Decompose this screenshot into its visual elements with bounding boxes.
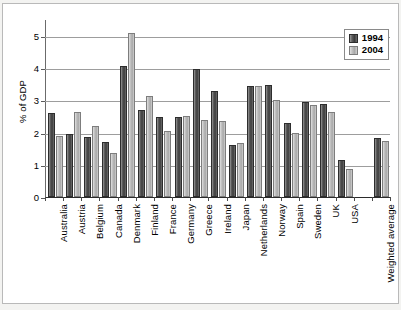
- y-tick-label-1: 1: [25, 161, 39, 171]
- bar-series-container: [45, 23, 390, 197]
- x-tick-mark: [45, 197, 46, 201]
- legend-swatch-icon-2004: [349, 46, 358, 55]
- x-tick-label: Belgium: [94, 204, 105, 308]
- bar-2004: [310, 105, 317, 197]
- x-tick-mark: [118, 197, 119, 201]
- x-tick-mark: [136, 197, 137, 201]
- bar-1994: [265, 85, 272, 197]
- x-tick-label: Germany: [185, 204, 196, 308]
- x-tick-label: Austria: [76, 204, 87, 308]
- bar-group: [119, 23, 135, 197]
- y-tick-label-3: 3: [25, 96, 39, 106]
- bar-2004: [56, 136, 63, 197]
- x-tick-mark: [390, 197, 391, 201]
- bar-group: [319, 23, 335, 197]
- x-tick-mark: [81, 197, 82, 201]
- bar-1994: [374, 138, 381, 197]
- bar-group: [192, 23, 208, 197]
- x-tick-mark: [172, 197, 173, 201]
- x-tick-mark: [99, 197, 100, 201]
- bar-1994: [338, 160, 345, 197]
- chart-plate: % of GDP 012345 AustraliaAustriaBelgiumC…: [2, 3, 399, 304]
- y-tick-label-4: 4: [25, 64, 39, 74]
- bar-1994: [156, 117, 163, 197]
- plot-area: 012345: [45, 24, 390, 198]
- bar-group: [137, 23, 153, 197]
- x-tick-label: Denmark: [131, 204, 142, 308]
- x-tick-label: Australia: [58, 204, 69, 308]
- legend-swatch-icon-1994: [349, 34, 358, 43]
- x-tick-mark: [190, 197, 191, 201]
- bar-1994: [320, 104, 327, 197]
- x-tick-label: Ireland: [222, 204, 233, 308]
- bar-group: [65, 23, 81, 197]
- x-tick-label: UK: [330, 204, 341, 308]
- bar-1994: [247, 86, 254, 197]
- bar-1994: [138, 110, 145, 197]
- chart-figure: % of GDP 012345 AustraliaAustriaBelgiumC…: [0, 0, 401, 310]
- bar-1994: [66, 134, 73, 197]
- x-tick-mark: [63, 197, 64, 201]
- x-tick-label: France: [167, 204, 178, 308]
- bar-group: [47, 23, 63, 197]
- bar-2004: [164, 131, 171, 197]
- y-tick-label-5: 5: [25, 32, 39, 42]
- bar-2004: [328, 112, 335, 197]
- x-tick-label: Japan: [240, 204, 251, 308]
- bar-2004: [74, 112, 81, 197]
- x-tick-mark: [281, 197, 282, 201]
- x-tick-label: Spain: [294, 204, 305, 308]
- legend-label-2004: 2004: [362, 45, 383, 55]
- x-tick-mark: [317, 197, 318, 201]
- x-tick-mark: [263, 197, 264, 201]
- bar-group: [83, 23, 99, 197]
- bar-2004: [346, 169, 353, 197]
- legend-label-1994: 1994: [362, 33, 383, 43]
- bar-group: [101, 23, 117, 197]
- bar-1994: [284, 123, 291, 197]
- bar-group: [301, 23, 317, 197]
- x-tick-mark: [227, 197, 228, 201]
- bar-2004: [292, 133, 299, 197]
- bar-group: [228, 23, 244, 197]
- bar-2004: [110, 153, 117, 197]
- bar-2004: [146, 96, 153, 197]
- bar-2004: [128, 33, 135, 197]
- chart-legend: 1994 2004: [344, 29, 389, 60]
- bar-2004: [92, 126, 99, 197]
- bar-1994: [48, 113, 55, 197]
- bar-1994: [120, 66, 127, 197]
- x-tick-label: Norway: [276, 204, 287, 308]
- bar-2004: [382, 141, 389, 197]
- x-tick-mark: [208, 197, 209, 201]
- bar-group: [155, 23, 171, 197]
- bar-1994: [193, 69, 200, 197]
- y-tick-label-2: 2: [25, 129, 39, 139]
- bar-2004: [237, 143, 244, 197]
- x-tick-mark: [154, 197, 155, 201]
- bar-2004: [183, 116, 190, 197]
- bar-1994: [175, 117, 182, 197]
- x-tick-mark: [372, 197, 373, 201]
- x-tick-label: USA: [349, 204, 360, 308]
- x-tick-label: Greece: [203, 204, 214, 308]
- bar-2004: [273, 100, 280, 197]
- x-tick-label: Canada: [113, 204, 124, 308]
- bar-group: [210, 23, 226, 197]
- bar-1994: [302, 102, 309, 197]
- x-tick-mark: [245, 197, 246, 201]
- bar-group: [246, 23, 262, 197]
- x-tick-label: Netherlands: [258, 204, 269, 308]
- legend-item-2004: 2004: [349, 44, 383, 56]
- y-tick-label-0: 0: [25, 193, 39, 203]
- legend-item-1994: 1994: [349, 32, 383, 44]
- bar-2004: [255, 86, 262, 197]
- bar-group: [174, 23, 190, 197]
- bar-1994: [229, 145, 236, 197]
- bar-1994: [211, 91, 218, 197]
- bar-1994: [84, 137, 91, 197]
- x-axis-line: [45, 197, 390, 198]
- x-tick-mark: [336, 197, 337, 201]
- bar-1994: [102, 142, 109, 197]
- x-tick-label: Sweden: [312, 204, 323, 308]
